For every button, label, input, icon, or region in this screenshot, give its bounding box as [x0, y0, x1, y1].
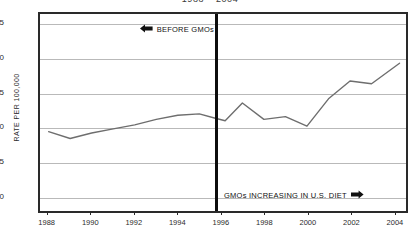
x-axis-tick-mark — [264, 211, 265, 215]
x-axis-tick-label: 1998 — [244, 218, 284, 227]
plot-area — [38, 12, 408, 213]
y-axis-tick-label: 175 — [0, 17, 4, 26]
annotation-before-gmos: BEFORE GMOs — [140, 24, 214, 35]
x-axis-tick-label: 1994 — [157, 218, 197, 227]
y-axis-tick-label: 50 — [0, 192, 4, 201]
x-axis-tick-mark — [221, 211, 222, 215]
left-arrow-icon — [140, 24, 153, 35]
gmo-introduction-divider — [215, 14, 218, 211]
x-axis-tick-mark — [47, 211, 48, 215]
x-axis-tick-label: 2002 — [331, 218, 371, 227]
x-axis-tick-label: 1990 — [70, 218, 110, 227]
chart-figure: 1988 – 2004 RATE PER 100,000 50751001251… — [0, 0, 420, 240]
y-axis-tick-label: 150 — [0, 52, 4, 61]
data-series-line — [40, 14, 406, 211]
y-axis-tick-label: 100 — [0, 122, 4, 131]
x-axis-tick-label: 2000 — [288, 218, 328, 227]
x-axis-tick-mark — [177, 211, 178, 215]
x-axis-tick-label: 1996 — [201, 218, 241, 227]
x-axis-tick-mark — [351, 211, 352, 215]
annotation-gmos-increasing-label: GMOs INCREASING IN U.S. DIET — [224, 191, 347, 200]
chart-title: 1988 – 2004 — [0, 0, 420, 5]
x-axis-tick-label: 2004 — [375, 218, 415, 227]
y-axis-tick-label: 75 — [0, 157, 4, 166]
y-axis-title: RATE PER 100,000 — [13, 48, 20, 168]
annotation-gmos-increasing: GMOs INCREASING IN U.S. DIET — [224, 190, 364, 201]
x-axis-tick-mark — [308, 211, 309, 215]
x-axis-tick-mark — [134, 211, 135, 215]
x-axis-tick-label: 1992 — [114, 218, 154, 227]
right-arrow-icon — [351, 190, 364, 201]
x-axis-tick-mark — [90, 211, 91, 215]
annotation-before-gmos-label: BEFORE GMOs — [157, 25, 214, 34]
x-axis-tick-label: 1988 — [27, 218, 67, 227]
x-axis-tick-mark — [395, 211, 396, 215]
y-axis-tick-label: 125 — [0, 87, 4, 96]
